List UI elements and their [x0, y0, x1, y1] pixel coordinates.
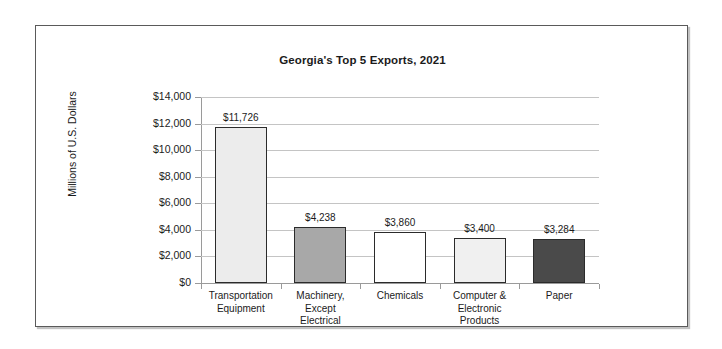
category-label-line: Electronic — [432, 303, 528, 316]
y-axis-tick — [195, 97, 201, 98]
y-axis-tick-label: $0 — [121, 276, 191, 288]
x-axis-tick — [281, 284, 282, 289]
x-axis-category-label: Paper — [511, 290, 607, 303]
gridline — [201, 97, 599, 98]
y-axis-tick-label: $4,000 — [121, 223, 191, 235]
bar[interactable] — [533, 239, 585, 283]
y-axis-tick — [195, 230, 201, 231]
y-axis-tick-label: $14,000 — [121, 90, 191, 102]
plot-area: $11,726$4,238$3,860$3,400$3,284 — [201, 97, 599, 283]
bar[interactable] — [215, 127, 267, 283]
y-axis-tick-label: $2,000 — [121, 249, 191, 261]
y-axis-tick-label: $8,000 — [121, 170, 191, 182]
y-axis-tick — [195, 124, 201, 125]
y-axis-tick-label: $6,000 — [121, 196, 191, 208]
y-axis-tick — [195, 203, 201, 204]
bar-value-label: $3,860 — [355, 217, 445, 228]
bar[interactable] — [294, 227, 346, 283]
y-axis-tick — [195, 177, 201, 178]
x-axis-tick — [440, 284, 441, 289]
bar[interactable] — [454, 238, 506, 283]
x-axis-tick — [519, 284, 520, 289]
bar-value-label: $3,400 — [435, 223, 525, 234]
category-label-line: Paper — [511, 290, 607, 303]
chart-title: Georgia's Top 5 Exports, 2021 — [36, 54, 689, 66]
chart-frame: Georgia's Top 5 Exports, 2021 Millions o… — [35, 25, 688, 327]
y-axis-tick-label: $12,000 — [121, 117, 191, 129]
gridline — [201, 124, 599, 125]
y-axis-tick — [195, 256, 201, 257]
bar-value-label: $4,238 — [275, 212, 365, 223]
category-label-line: Products — [432, 315, 528, 328]
x-axis-tick — [599, 284, 600, 289]
bar-value-label: $3,284 — [514, 224, 604, 235]
y-axis-tick — [195, 283, 201, 284]
x-axis-tick — [360, 284, 361, 289]
gridline — [201, 283, 599, 284]
x-axis-tick — [201, 284, 202, 289]
bar[interactable] — [374, 232, 426, 283]
bar-value-label: $11,726 — [196, 112, 286, 123]
y-axis-tick — [195, 150, 201, 151]
y-axis-title: Millions of U.S. Dollars — [66, 64, 78, 224]
y-axis-tick-labels: $14,000$12,000$10,000$8,000$6,000$4,000$… — [115, 97, 191, 283]
category-label-line: Electrical — [272, 315, 368, 328]
category-label-line: Except — [272, 303, 368, 316]
y-axis-tick-label: $10,000 — [121, 143, 191, 155]
